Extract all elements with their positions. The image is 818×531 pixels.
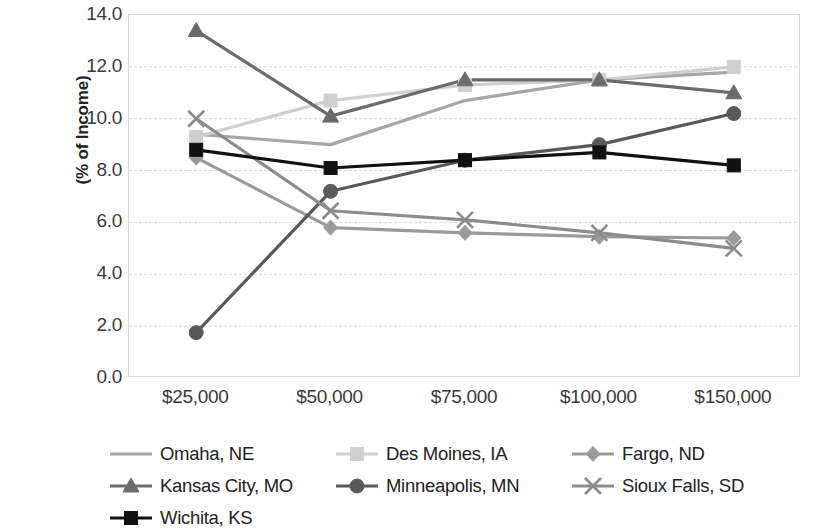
x-axis-tick-label: $100,000	[560, 386, 637, 408]
data-point-square	[190, 130, 203, 143]
data-point-circle	[727, 107, 741, 121]
data-point-square	[190, 143, 203, 156]
data-point-square	[459, 154, 472, 167]
legend-swatch-triangle-icon	[108, 477, 154, 495]
y-axis-tick-label: 12.0	[50, 55, 122, 77]
legend-item[interactable]: Des Moines, IA	[334, 443, 570, 465]
y-axis-tick-label: 2.0	[50, 314, 122, 336]
y-axis-tick-label: 10.0	[50, 107, 122, 129]
series-line	[196, 114, 734, 333]
plot-svg	[129, 15, 799, 376]
data-point-diamond	[586, 447, 600, 462]
data-point-diamond	[458, 225, 472, 240]
legend-item[interactable]: Wichita, KS	[108, 507, 334, 529]
legend-label: Des Moines, IA	[386, 443, 507, 465]
legend-swatch-circle-icon	[334, 477, 380, 495]
plot-area	[128, 14, 800, 377]
x-axis-tick-label: $75,000	[431, 386, 498, 408]
chart-legend: Omaha, NEDes Moines, IAFargo, NDKansas C…	[108, 438, 808, 531]
legend-item[interactable]: Sioux Falls, SD	[570, 475, 808, 497]
data-point-square	[324, 161, 337, 174]
x-axis-tick-label: $25,000	[162, 386, 229, 408]
legend-item[interactable]: Fargo, ND	[570, 443, 808, 465]
y-axis-tick-label: 6.0	[50, 210, 122, 232]
y-axis-tick-label: 8.0	[50, 159, 122, 181]
legend-label: Sioux Falls, SD	[622, 475, 744, 497]
y-axis-tick-label: 0.0	[50, 366, 122, 388]
y-axis-tick-label: 14.0	[50, 3, 122, 25]
legend-swatch-diamond-icon	[570, 445, 616, 463]
data-point-square	[324, 94, 337, 107]
data-point-square	[593, 146, 606, 159]
data-point-circle	[189, 326, 203, 340]
legend-swatch-none-icon	[108, 445, 154, 463]
legend-label: Kansas City, MO	[160, 475, 293, 497]
x-axis-tick-label: $50,000	[296, 386, 363, 408]
legend-item[interactable]: Omaha, NE	[108, 443, 334, 465]
legend-swatch-cross-icon	[570, 477, 616, 495]
legend-item[interactable]: Kansas City, MO	[108, 475, 334, 497]
legend-label: Omaha, NE	[160, 443, 254, 465]
data-point-circle	[324, 184, 338, 198]
data-point-square	[351, 448, 364, 461]
data-point-square	[727, 60, 740, 73]
legend-label: Fargo, ND	[622, 443, 705, 465]
legend-item[interactable]: Minneapolis, MN	[334, 475, 570, 497]
y-axis-tick-label: 4.0	[50, 262, 122, 284]
legend-label: Minneapolis, MN	[386, 475, 519, 497]
x-axis-tick-label: $150,000	[694, 386, 771, 408]
data-point-circle	[350, 479, 364, 493]
data-point-square	[125, 512, 138, 525]
legend-swatch-square-icon	[334, 445, 380, 463]
legend-label: Wichita, KS	[160, 507, 252, 529]
legend-swatch-square-icon	[108, 509, 154, 527]
data-point-triangle	[188, 23, 204, 37]
data-point-square	[727, 159, 740, 172]
